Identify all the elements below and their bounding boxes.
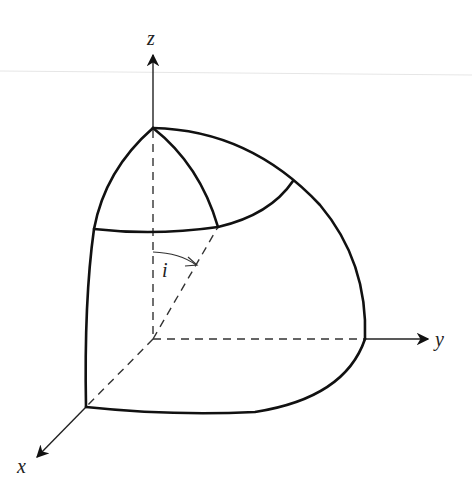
z-axis-label: z xyxy=(146,27,155,49)
y-axis-label: y xyxy=(433,328,444,351)
background-rule xyxy=(0,71,472,75)
inclined-line xyxy=(153,227,218,339)
angle-label: i xyxy=(162,259,168,281)
x-axis-hidden xyxy=(86,339,153,407)
x-axis xyxy=(37,407,86,457)
left-meridian xyxy=(86,128,153,407)
x-axis-label: x xyxy=(16,455,26,477)
latitude-band xyxy=(94,181,293,232)
bottom-edge xyxy=(86,339,365,413)
inner-meridian xyxy=(153,128,218,227)
octant-diagram: z y x i xyxy=(0,0,472,491)
